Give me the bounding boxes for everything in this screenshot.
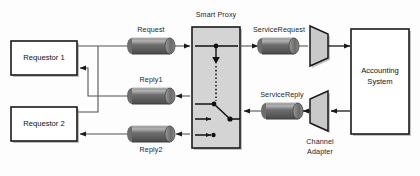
channel-reply1-label: Reply1	[118, 75, 184, 84]
channel-adapter-label-line1: Channel	[292, 137, 348, 146]
channel-reply1[interactable]	[127, 88, 190, 104]
channel-reply2[interactable]	[127, 126, 190, 142]
node-channel-adapter-top[interactable]	[310, 26, 350, 68]
channel-service-request-label: ServiceRequest	[248, 25, 310, 34]
channel-adapter-label-line2: Adapter	[292, 147, 348, 156]
accounting-system-label-line2: System	[351, 77, 409, 87]
channel-request-label: Request	[118, 25, 184, 34]
requestor-2-label: Requestor 2	[11, 119, 77, 129]
channel-service-reply[interactable]	[244, 103, 303, 119]
channel-request[interactable]	[127, 38, 190, 54]
connector-lines	[78, 46, 129, 134]
channel-service-reply-label: ServiceReply	[254, 90, 310, 99]
diagram-canvas: Requestor 1 Requestor 2 Request Reply1 R…	[0, 0, 420, 176]
node-channel-adapter-bottom[interactable]	[303, 91, 350, 133]
smart-proxy-label: Smart Proxy	[186, 10, 246, 19]
channel-reply2-label: Reply2	[118, 145, 184, 154]
channel-service-request[interactable]	[240, 38, 308, 54]
requestor-1-label: Requestor 1	[11, 53, 77, 63]
diagram-svg	[0, 0, 420, 176]
accounting-system-label-line1: Accounting	[351, 66, 409, 76]
